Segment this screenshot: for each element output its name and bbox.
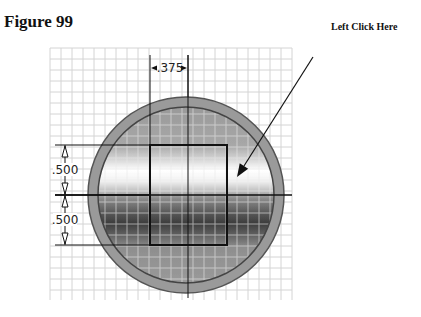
dim-arrow-icon [62, 233, 68, 244]
dim-arrow-icon [62, 183, 68, 194]
dimension-label-375[interactable]: .375 [157, 61, 184, 75]
dim-arrow-icon [62, 146, 68, 157]
dimension-label-500[interactable]: .500 [52, 213, 79, 227]
cad-sketch-drawing: .375 .500.500 [0, 0, 421, 317]
dimension-label-500[interactable]: .500 [52, 163, 79, 177]
